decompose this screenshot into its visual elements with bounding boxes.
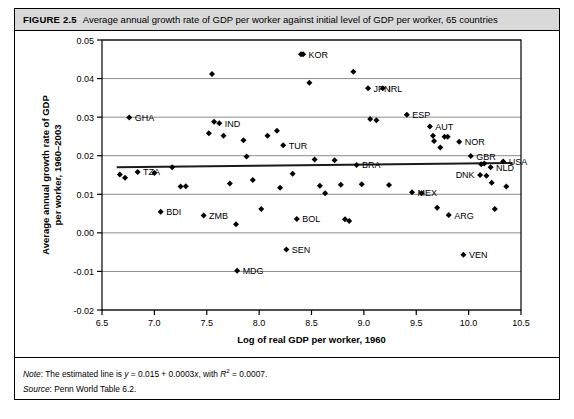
data-point[interactable] [211, 119, 217, 125]
data-point-marker[interactable] [460, 252, 466, 258]
data-point[interactable] [183, 183, 189, 189]
data-point-marker[interactable] [250, 177, 256, 183]
data-point-marker[interactable] [354, 162, 360, 168]
data-point-marker[interactable] [446, 212, 452, 218]
data-point[interactable] [206, 130, 212, 136]
data-point[interactable]: IND [216, 119, 241, 129]
data-point-marker[interactable] [456, 139, 462, 145]
data-point-marker[interactable] [178, 184, 184, 190]
data-point-marker[interactable] [234, 268, 240, 274]
data-point[interactable]: AUT [427, 122, 454, 132]
data-point-marker[interactable] [283, 246, 289, 252]
data-point-marker[interactable] [233, 221, 239, 227]
data-point[interactable]: BOL [294, 214, 321, 224]
data-point-marker[interactable] [489, 180, 495, 186]
data-point[interactable] [274, 128, 280, 134]
data-point-marker[interactable] [488, 164, 494, 170]
data-point-marker[interactable] [332, 157, 338, 163]
data-point[interactable]: JPN [365, 84, 391, 94]
data-point[interactable] [244, 153, 250, 159]
data-point-marker[interactable] [359, 181, 365, 187]
data-point-marker[interactable] [350, 69, 356, 75]
data-point-marker[interactable] [135, 169, 141, 175]
data-point-marker[interactable] [338, 182, 344, 188]
data-point-marker[interactable] [206, 130, 212, 136]
data-point[interactable]: ZMB [201, 211, 229, 221]
data-point-marker[interactable] [183, 183, 189, 189]
data-point[interactable] [265, 133, 271, 139]
data-point[interactable] [178, 184, 184, 190]
data-point[interactable]: DNK [456, 170, 484, 180]
data-point-marker[interactable] [126, 115, 132, 121]
data-point[interactable] [386, 182, 392, 188]
data-point-marker[interactable] [322, 190, 328, 196]
data-point-marker[interactable] [221, 133, 227, 139]
data-point[interactable] [332, 157, 338, 163]
data-point[interactable] [290, 171, 296, 177]
data-point-marker[interactable] [277, 185, 283, 191]
data-point[interactable] [250, 177, 256, 183]
data-point[interactable] [437, 145, 443, 151]
data-point-marker[interactable] [365, 85, 371, 91]
data-point-marker[interactable] [290, 171, 296, 177]
data-point[interactable]: ESP [404, 110, 431, 120]
data-point[interactable]: GBR [468, 152, 497, 162]
data-point-marker[interactable] [483, 173, 489, 179]
data-point[interactable]: ARG [446, 211, 474, 221]
data-point-marker[interactable] [431, 138, 437, 144]
data-point[interactable] [430, 133, 436, 139]
data-point-marker[interactable] [158, 209, 164, 215]
data-point-marker[interactable] [503, 184, 509, 190]
data-point[interactable]: KOR [300, 50, 329, 60]
data-point[interactable] [233, 221, 239, 227]
data-point-marker[interactable] [211, 119, 217, 125]
data-point[interactable] [373, 117, 379, 123]
data-point-marker[interactable] [430, 133, 436, 139]
data-point-marker[interactable] [216, 120, 222, 126]
data-point[interactable] [359, 181, 365, 187]
data-point-marker[interactable] [294, 216, 300, 222]
data-point[interactable]: BDI [158, 207, 182, 217]
data-point-marker[interactable] [306, 80, 312, 86]
data-point[interactable] [227, 180, 233, 186]
data-point[interactable]: VEN [460, 250, 487, 260]
data-point[interactable] [445, 134, 451, 140]
data-point[interactable]: TUR [280, 141, 307, 151]
data-point-marker[interactable] [280, 142, 286, 148]
data-point[interactable] [338, 182, 344, 188]
data-point[interactable] [306, 80, 312, 86]
data-point[interactable] [434, 205, 440, 211]
data-point-marker[interactable] [209, 71, 215, 77]
data-point[interactable] [503, 184, 509, 190]
data-point-marker[interactable] [477, 172, 483, 178]
data-point[interactable] [312, 157, 318, 163]
data-point-marker[interactable] [117, 172, 123, 178]
data-point[interactable] [209, 71, 215, 77]
data-point-marker[interactable] [373, 117, 379, 123]
data-point-marker[interactable] [122, 175, 128, 181]
data-point-marker[interactable] [274, 128, 280, 134]
data-point[interactable] [169, 164, 175, 170]
data-point[interactable] [122, 175, 128, 181]
data-point[interactable]: NOR [456, 137, 485, 147]
data-point[interactable] [258, 206, 264, 212]
data-point-marker[interactable] [258, 206, 264, 212]
data-point[interactable]: MDG [234, 266, 264, 276]
data-point[interactable] [117, 172, 123, 178]
data-point[interactable] [317, 183, 323, 189]
data-point[interactable] [277, 185, 283, 191]
data-point-marker[interactable] [244, 153, 250, 159]
data-point[interactable] [322, 190, 328, 196]
data-point-marker[interactable] [468, 153, 474, 159]
data-point[interactable] [240, 137, 246, 143]
data-point-marker[interactable] [445, 134, 451, 140]
data-point-marker[interactable] [201, 213, 207, 219]
data-point-marker[interactable] [265, 133, 271, 139]
data-point-marker[interactable] [434, 205, 440, 211]
data-point-marker[interactable] [427, 123, 433, 129]
data-point-marker[interactable] [437, 145, 443, 151]
data-point-marker[interactable] [386, 182, 392, 188]
data-point-marker[interactable] [169, 164, 175, 170]
data-point[interactable] [492, 206, 498, 212]
data-point[interactable]: SEN [283, 245, 310, 255]
